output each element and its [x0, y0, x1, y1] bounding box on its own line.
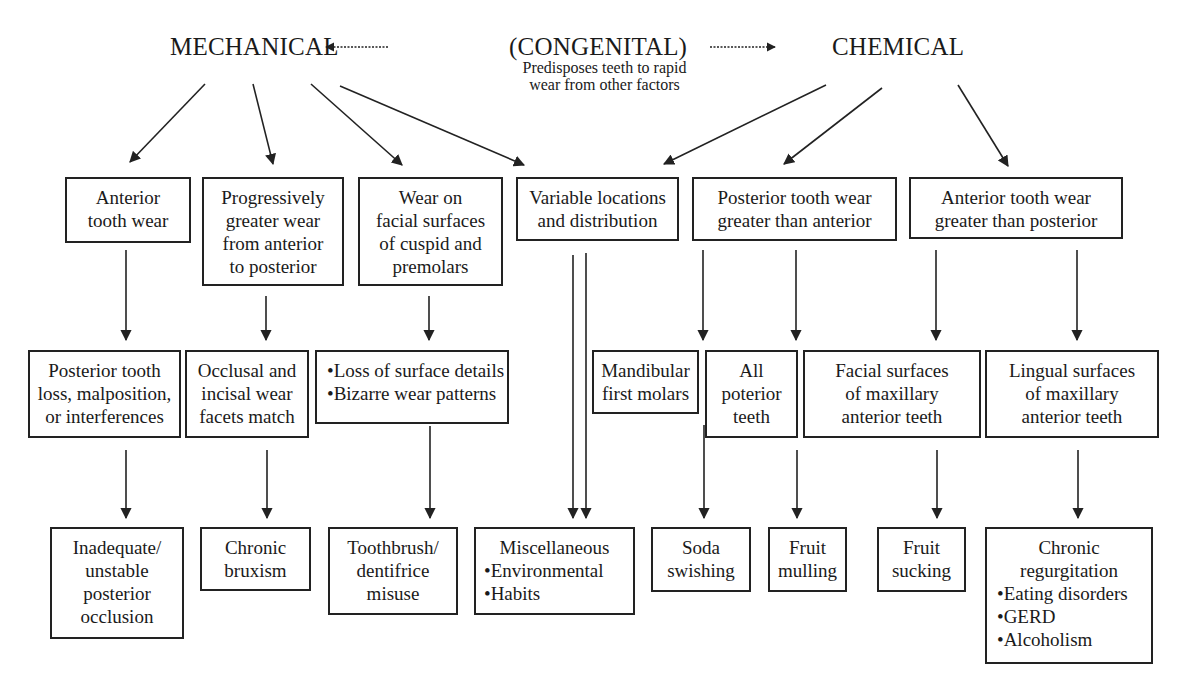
box-chronic-bruxism: Chronic bruxism	[200, 527, 311, 591]
box-soda-swishing: Soda swishing	[651, 527, 751, 592]
box-fruit-mulling: Fruit mulling	[768, 527, 847, 592]
box-all-posterior-teeth: All poterior teeth	[705, 350, 798, 438]
congenital-heading: (CONGENITAL)	[509, 33, 687, 61]
box-anterior-greater-than-posterior: Anterior tooth wear greater than posteri…	[909, 177, 1123, 239]
box-miscellaneous: Miscellaneous •Environmental •Habits	[474, 527, 635, 615]
box-fruit-sucking: Fruit sucking	[877, 527, 966, 592]
box-chronic-regurgitation: Chronic regurgitation •Eating disorders …	[985, 527, 1153, 664]
box-posterior-tooth-loss: Posterior tooth loss, malposition, or in…	[28, 350, 181, 438]
congenital-note-line-1: Predisposes teeth to rapid	[502, 59, 707, 76]
mechanical-heading: MECHANICAL	[170, 33, 339, 61]
box-loss-of-surface-details: •Loss of surface details •Bizarre wear p…	[315, 350, 509, 424]
box-toothbrush-misuse: Toothbrush/ dentifrice misuse	[328, 527, 458, 615]
box-wear-facial-surfaces: Wear on facial surfaces of cuspid and pr…	[358, 177, 503, 286]
box-mandibular-first-molars: Mandibular first molars	[592, 350, 699, 414]
box-anterior-tooth-wear: Anterior tooth wear	[65, 177, 191, 243]
box-facial-maxillary-anterior: Facial surfaces of maxillary anterior te…	[803, 350, 981, 438]
box-lingual-maxillary-anterior: Lingual surfaces of maxillary anterior t…	[985, 350, 1159, 438]
box-variable-locations: Variable locations and distribution	[516, 177, 679, 241]
box-inadequate-occlusion: Inadequate/ unstable posterior occlusion	[50, 527, 184, 639]
box-progressively-greater-wear: Progressively greater wear from anterior…	[202, 177, 344, 286]
chemical-heading: CHEMICAL	[832, 33, 964, 61]
congenital-note-line-2: wear from other factors	[502, 76, 707, 93]
box-posterior-greater-than-anterior: Posterior tooth wear greater than anteri…	[692, 177, 897, 241]
box-occlusal-incisal-facets: Occlusal and incisal wear facets match	[185, 350, 309, 438]
